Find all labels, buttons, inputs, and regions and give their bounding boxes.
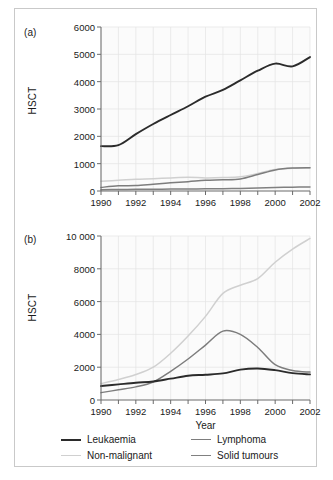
legend-swatch-solid-tumours	[191, 455, 211, 456]
panel-b-ytick-label: 2000	[74, 362, 95, 373]
legend-item-non-malignant[interactable]: Non-malignant	[61, 450, 152, 461]
panel-a-xtick-label: 1998	[230, 197, 251, 208]
legend-label-solid-tumours: Solid tumours	[217, 450, 278, 461]
legend-swatch-leukaemia	[61, 439, 81, 441]
panel-b-xtick-label: 1992	[125, 406, 146, 417]
panel-a-ytick-label: 2000	[74, 131, 95, 142]
panel-b-tag: (b)	[24, 234, 37, 245]
figure-frame: (a) HSCT 0100020003000400050006000199019…	[14, 8, 317, 467]
panel-b-xtick-label: 1990	[90, 406, 111, 417]
panel-b-xtick-label: 2000	[265, 406, 286, 417]
panel-a-xtick-label: 1992	[125, 197, 146, 208]
panel-b-x-axis-title: Year	[101, 420, 310, 431]
chart-panel-a: (a) HSCT 0100020003000400050006000199019…	[15, 9, 318, 224]
panel-b-xtick-label: 1998	[230, 406, 251, 417]
panel-b-xtick-label: 1996	[195, 406, 216, 417]
panel-a-xtick-label: 1990	[90, 197, 111, 208]
panel-a-plot-area: 0100020003000400050006000199019921994199…	[101, 27, 310, 191]
legend-label-leukaemia: Leukaemia	[87, 434, 136, 445]
legend: Leukaemia Non-malignant Lymphoma Solid t…	[15, 433, 318, 467]
panel-a-ytick-label: 1000	[74, 158, 95, 169]
panel-b-ytick-label: 10 000	[66, 231, 95, 242]
panel-b-plot-area: 0200040006000800010 00019901992199419961…	[101, 236, 310, 400]
panel-b-ytick-label: 4000	[74, 329, 95, 340]
panel-a-xtick-label: 2000	[265, 197, 286, 208]
panel-b-y-axis-title: HSCT	[27, 278, 38, 338]
panel-a-xtick-label: 1996	[195, 197, 216, 208]
panel-b-ytick-label: 6000	[74, 296, 95, 307]
legend-swatch-non-malignant	[61, 455, 81, 456]
legend-label-non-malignant: Non-malignant	[87, 450, 152, 461]
panel-a-ytick-label: 0	[90, 186, 95, 197]
legend-label-lymphoma: Lymphoma	[217, 434, 266, 445]
panel-a-ytick-label: 6000	[74, 22, 95, 33]
panel-a-xtick-label: 1994	[160, 197, 181, 208]
panel-a-ytick-label: 4000	[74, 76, 95, 87]
panel-a-tag: (a)	[24, 27, 37, 38]
panel-a-lines	[101, 27, 310, 191]
panel-b-xtick-label: 2002	[299, 406, 320, 417]
panel-b-ytick-label: 8000	[74, 263, 95, 274]
legend-swatch-lymphoma	[191, 439, 211, 440]
legend-item-leukaemia[interactable]: Leukaemia	[61, 434, 136, 445]
panel-b-lines	[101, 236, 310, 400]
panel-a-xtick-label: 2002	[299, 197, 320, 208]
chart-panel-b: (b) HSCT 0200040006000800010 00019901992…	[15, 216, 318, 426]
panel-a-ytick-label: 5000	[74, 49, 95, 60]
legend-item-solid-tumours[interactable]: Solid tumours	[191, 450, 278, 461]
panel-b-xtick-label: 1994	[160, 406, 181, 417]
panel-b-ytick-label: 0	[90, 395, 95, 406]
legend-item-lymphoma[interactable]: Lymphoma	[191, 434, 266, 445]
panel-a-y-axis-title: HSCT	[27, 71, 38, 131]
panel-a-ytick-label: 3000	[74, 104, 95, 115]
